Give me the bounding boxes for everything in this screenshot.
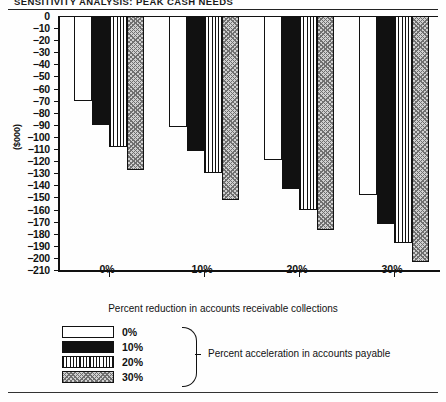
bar [109, 16, 127, 147]
y-tick-label: −130 [10, 167, 50, 179]
legend-label: 10% [122, 341, 143, 353]
legend-swatch [62, 356, 114, 368]
y-tick-label: −20 [10, 34, 50, 46]
y-tick-label: −110 [10, 143, 50, 155]
y-tick [54, 52, 60, 53]
bar [127, 16, 145, 170]
y-tick-label: −40 [10, 58, 50, 70]
x-tick-label: 30% [381, 263, 402, 275]
legend-swatch [62, 371, 114, 383]
y-tick [54, 76, 60, 77]
legend: 0%10%20%30% Percent acceleration in acco… [62, 326, 422, 388]
y-tick [54, 113, 60, 114]
y-tick-label: −30 [10, 46, 50, 58]
y-tick-label: −140 [10, 179, 50, 191]
y-tick [54, 185, 60, 186]
y-tick [54, 125, 60, 126]
legend-swatch [62, 326, 114, 338]
legend-label: 20% [122, 356, 143, 368]
bar [204, 16, 222, 173]
y-tick-label: −200 [10, 252, 50, 264]
y-tick [54, 258, 60, 259]
y-tick [54, 197, 60, 198]
plot-area [58, 16, 440, 272]
y-tick-label: −160 [10, 204, 50, 216]
bar [222, 16, 240, 200]
y-tick-label: −50 [10, 70, 50, 82]
page-title: SENSITIVITY ANALYSIS: PEAK CASH NEEDS [14, 0, 233, 7]
bar [394, 16, 412, 243]
y-tick-label: −10 [10, 22, 50, 34]
y-tick-label: −190 [10, 240, 50, 252]
y-tick-label: −170 [10, 216, 50, 228]
chart-page: SENSITIVITY ANALYSIS: PEAK CASH NEEDS ($… [0, 0, 446, 402]
y-tick-label: −210 [10, 264, 50, 276]
y-tick [54, 161, 60, 162]
bar [187, 16, 205, 151]
y-tick [54, 210, 60, 211]
bar [92, 16, 110, 125]
bar [74, 16, 92, 101]
y-tick-label: −180 [10, 228, 50, 240]
y-tick [54, 28, 60, 29]
bar [282, 16, 300, 189]
x-tick-label: 0% [99, 263, 114, 275]
x-tick-label: 20% [286, 263, 307, 275]
y-tick [54, 234, 60, 235]
header-rule [8, 9, 438, 10]
y-tick [54, 89, 60, 90]
bar [317, 16, 335, 230]
bar [359, 16, 377, 195]
y-tick-label: −60 [10, 83, 50, 95]
footer-rule [8, 392, 438, 393]
legend-title: Percent acceleration in accounts payable [208, 348, 390, 359]
legend-label: 0% [122, 326, 137, 338]
bar [264, 16, 282, 160]
y-tick [54, 173, 60, 174]
bar [169, 16, 187, 127]
bar [377, 16, 395, 224]
legend-label: 30% [122, 371, 143, 383]
y-tick [54, 64, 60, 65]
y-tick-label: −150 [10, 191, 50, 203]
x-axis-title: Percent reduction in accounts receivable… [0, 303, 446, 314]
y-tick-label: −70 [10, 95, 50, 107]
bar [299, 16, 317, 210]
y-tick [54, 149, 60, 150]
y-tick [54, 101, 60, 102]
y-tick-label: −80 [10, 107, 50, 119]
legend-brace [182, 327, 197, 387]
y-tick-label: 0 [10, 10, 50, 22]
y-tick-label: −100 [10, 131, 50, 143]
y-tick [54, 222, 60, 223]
bar [412, 16, 430, 262]
y-tick [54, 246, 60, 247]
y-tick-label: −120 [10, 155, 50, 167]
legend-brace-nub [195, 354, 201, 355]
y-tick-label: −90 [10, 119, 50, 131]
y-tick [54, 40, 60, 41]
y-tick [54, 137, 60, 138]
y-tick [54, 270, 60, 271]
legend-swatch [62, 341, 114, 353]
x-tick-label: 10% [191, 263, 212, 275]
